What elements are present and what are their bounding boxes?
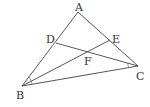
segment-bc (22, 66, 138, 86)
triangle-diagram: A B C D E F (0, 0, 150, 107)
segment-ab (22, 12, 78, 86)
angle-mark-b2 (31, 81, 32, 84)
angle-mark-b1 (29, 77, 31, 81)
label-d: D (46, 33, 55, 46)
label-e: E (112, 33, 120, 46)
label-c: C (136, 70, 144, 83)
segment-be (22, 40, 110, 86)
label-b: B (16, 89, 24, 102)
label-a: A (74, 1, 84, 14)
label-f: F (84, 55, 92, 68)
